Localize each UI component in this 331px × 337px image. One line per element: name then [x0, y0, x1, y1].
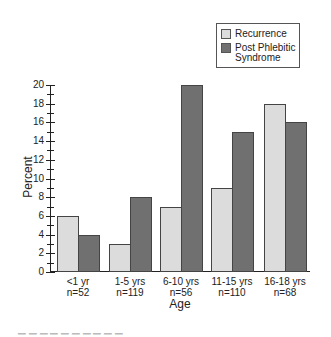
- bar-recurrence-3: [211, 188, 233, 272]
- bar-post-phlebitic-3: [232, 132, 254, 272]
- x-tick-label: <1 yrn=52: [53, 276, 103, 298]
- y-tick-label: 18: [24, 98, 44, 109]
- y-tick-label: 16: [24, 116, 44, 127]
- bar-recurrence-1: [109, 244, 131, 272]
- y-tick-label: 0: [24, 266, 44, 277]
- bar-post-phlebitic-4: [285, 122, 307, 272]
- y-tick-label: 14: [24, 135, 44, 146]
- bar-post-phlebitic-1: [130, 197, 152, 272]
- bar-recurrence-2: [160, 207, 182, 272]
- y-tick-label: 6: [24, 210, 44, 221]
- figure-caption-fragment: ▔ ▔ ▔ ▔ ▔ ▔ ▔ ▔ ▔ ▔: [18, 333, 123, 337]
- chart-legend: Recurrence Post Phlebitic Syndrome: [216, 23, 300, 68]
- x-axis-title: Age: [150, 297, 210, 311]
- legend-label-post-phlebitic-2: Syndrome: [235, 53, 281, 63]
- y-axis-line: [50, 85, 51, 272]
- y-tick-label: 8: [24, 191, 44, 202]
- bar-post-phlebitic-2: [181, 85, 203, 272]
- y-tick-label: 4: [24, 229, 44, 240]
- legend-swatch-post-phlebitic: [221, 43, 231, 53]
- bar-recurrence-4: [264, 104, 286, 272]
- y-tick: [46, 272, 55, 273]
- bar-post-phlebitic-0: [78, 235, 100, 272]
- x-tick-label: 6-10 yrsn=56: [156, 276, 206, 298]
- y-tick-label: 10: [24, 173, 44, 184]
- bar-recurrence-0: [57, 216, 79, 272]
- legend-label-recurrence: Recurrence: [235, 29, 287, 39]
- x-tick-label: 1-5 yrsn=119: [105, 276, 155, 298]
- x-tick-label: 11-15 yrsn=110: [207, 276, 257, 298]
- y-tick-label: 12: [24, 154, 44, 165]
- legend-swatch-recurrence: [221, 29, 231, 39]
- x-tick-label: 16-18 yrsn=68: [260, 276, 310, 298]
- y-tick-label: 2: [24, 247, 44, 258]
- y-tick-label: 20: [24, 79, 44, 90]
